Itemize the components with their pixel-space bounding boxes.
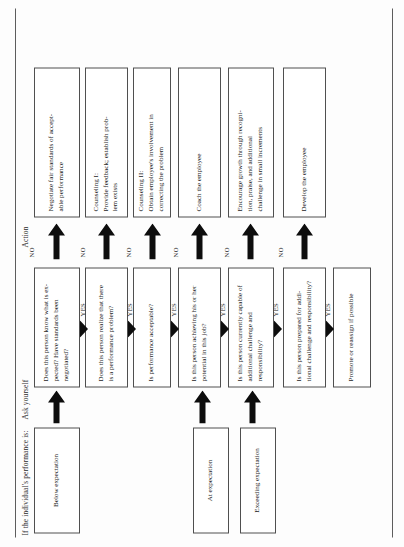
figure-page: If the individual's performance is: Ask … <box>0 0 404 547</box>
column-header-ask-yourself: Ask yourself <box>21 379 30 419</box>
action-box-a2: Counseling I: Provide feedback; establis… <box>85 67 128 217</box>
terminal-box-promote-reassign-text: Promote or reassign if possible <box>347 273 357 381</box>
question-box-q5-text: Is this person currently capable of addi… <box>236 273 265 381</box>
edge-label-yes-q5: YES <box>272 302 279 316</box>
edge-label-no-q3: NO <box>125 247 132 257</box>
column-header-action: Action <box>21 226 30 247</box>
action-box-a5: Encourage growth through recogni- tion, … <box>228 67 274 217</box>
question-box-q2: Does this person realize that there is a… <box>85 267 128 387</box>
question-box-q6: Is this person prepared for addi- tional… <box>283 267 326 387</box>
arrow-below-to-q1 <box>48 390 65 423</box>
edge-label-yes-q1: YES <box>79 302 86 316</box>
arrow-no-q6-to-a6 <box>296 223 313 259</box>
arrow-yes-q5-to-q6 <box>274 320 282 337</box>
edge-label-yes-q3: YES <box>170 302 177 316</box>
action-box-a3-text: Counseling II: Obtain employee's involve… <box>137 73 166 211</box>
question-box-q2-text: Does this person realize that there is a… <box>97 273 117 381</box>
table-rule-bottom <box>392 8 393 537</box>
edge-label-yes-q6: YES <box>324 302 331 316</box>
action-box-a1-text: Negotiate fair standards of accept- able… <box>47 73 67 211</box>
question-box-q1-text: Does this person know what is ex- pected… <box>42 273 71 381</box>
performance-box-at-label: At expectation <box>206 433 216 527</box>
action-box-a5-text: Encourage growth through recogni- tion, … <box>236 73 265 211</box>
edge-label-no-q2: NO <box>79 247 86 257</box>
edge-label-no-q6: NO <box>277 247 284 257</box>
edge-label-yes-q4: YES <box>219 302 226 316</box>
question-box-q1: Does this person know what is ex- pected… <box>34 267 80 387</box>
action-box-a6: Develop the employee <box>283 67 326 217</box>
question-box-q3-text: Is performance acceptable? <box>147 273 157 381</box>
column-header-performance: If the individual's performance is: <box>21 430 30 535</box>
question-box-q4: Is this person achieving his or her pote… <box>178 267 221 387</box>
edge-label-no-q1: NO <box>28 247 35 257</box>
arrow-no-q4-to-a4 <box>191 223 208 259</box>
question-box-q5: Is this person currently capable of addi… <box>228 267 274 387</box>
arrow-no-q2-to-a2 <box>98 223 115 259</box>
action-box-a2-text: Counseling I: Provide feedback; establis… <box>92 73 121 211</box>
arrow-yes-q4-to-q5 <box>221 320 229 337</box>
performance-box-exceeding-label: Exceeding expectation <box>253 433 263 527</box>
arrow-exceeding-to-q5 <box>244 390 261 423</box>
arrow-no-q5-to-a5 <box>242 223 259 259</box>
question-box-q4-text: Is this person achieving his or her pote… <box>190 273 210 381</box>
action-box-a1: Negotiate fair standards of accept- able… <box>34 67 80 217</box>
action-box-a3: Counseling II: Obtain employee's involve… <box>133 67 171 217</box>
question-box-q3: Is performance acceptable? <box>133 267 171 387</box>
performance-box-at: At expectation <box>193 427 229 533</box>
action-box-a4: Coach the employee <box>178 67 221 217</box>
arrow-no-q1-to-a1 <box>48 223 65 259</box>
table-rule-top <box>15 8 16 537</box>
performance-box-below: Below expectation <box>34 427 80 533</box>
arrow-no-q3-to-a3 <box>144 223 161 259</box>
arrow-yes-q1-to-q2 <box>80 320 88 337</box>
arrow-yes-q6-to-terminal <box>326 320 334 337</box>
arrow-yes-q2-to-q3 <box>128 320 136 337</box>
performance-management-flowchart: If the individual's performance is: Ask … <box>0 0 404 547</box>
terminal-box-promote-reassign: Promote or reassign if possible <box>333 267 371 387</box>
action-box-a6-text: Develop the employee <box>300 73 310 211</box>
performance-box-below-label: Below expectation <box>52 433 62 527</box>
edge-label-no-q4: NO <box>172 247 179 257</box>
arrow-at-to-q4 <box>194 390 211 423</box>
action-box-a4-text: Coach the employee <box>195 73 205 211</box>
edge-label-no-q5: NO <box>223 247 230 257</box>
arrow-yes-q3-to-q4 <box>171 320 179 337</box>
performance-box-exceeding: Exceeding expectation <box>240 427 276 533</box>
question-box-q6-text: Is this person prepared for addi- tional… <box>295 273 315 381</box>
edge-label-yes-q2: YES <box>126 302 133 316</box>
